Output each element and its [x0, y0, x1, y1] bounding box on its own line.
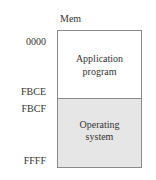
memory-header: Mem	[60, 13, 81, 24]
application-program-region: Application program	[57, 30, 142, 99]
os-label-line1: Operating	[58, 119, 141, 131]
address-fbce: FBCE	[2, 86, 46, 97]
os-label-line2: system	[58, 131, 141, 143]
operating-system-region: Operating system	[57, 98, 142, 168]
address-fbcf: FBCF	[2, 103, 46, 114]
address-0000: 0000	[2, 36, 46, 47]
application-label-line1: Application	[58, 53, 141, 65]
address-ffff: FFFF	[2, 155, 46, 166]
application-label-line2: program	[58, 66, 141, 78]
